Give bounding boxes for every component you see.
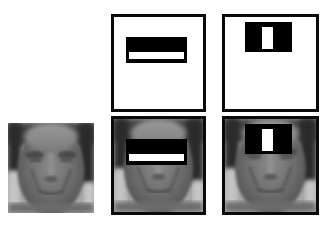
feature-white-region (129, 154, 184, 161)
panel-caption: face with two-rectangle feature over eye… (114, 119, 115, 120)
feature-white-region (262, 27, 273, 49)
feature-panel-three-rect: three-rectangle feature (white center be… (222, 14, 319, 112)
panel-caption: three-rectangle feature (white center be… (225, 17, 226, 18)
figure-title: Haar-like features overlaid on a face im… (0, 0, 1, 1)
face-icon (114, 119, 203, 212)
face-panel-two-rect: face with two-rectangle feature over eye… (111, 116, 206, 215)
panel-caption: face with three-rectangle feature over n… (225, 119, 226, 120)
feature-white-region (129, 52, 184, 59)
feature-white-region (262, 129, 273, 151)
face-icon (8, 123, 94, 213)
face-image-original: grayscale face image (8, 123, 94, 213)
three-rect-feature-overlay (245, 124, 292, 154)
two-rect-feature-overlay (126, 139, 187, 165)
panel-caption: two-rectangle feature (black above white… (114, 17, 115, 18)
feature-panel-two-rect: two-rectangle feature (black above white… (111, 14, 206, 112)
three-rect-feature (245, 22, 292, 52)
face-panel-three-rect: face with three-rectangle feature over n… (222, 116, 319, 215)
two-rect-feature (126, 37, 187, 63)
